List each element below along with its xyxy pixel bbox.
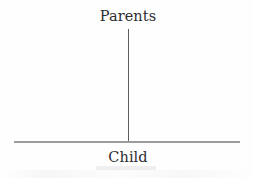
parents-label: Parents [3, 7, 253, 25]
child-label: Child [3, 148, 253, 166]
scan-artifact-band [0, 170, 253, 178]
scan-artifact-mark [96, 166, 156, 170]
vertical-connector-line [128, 29, 129, 142]
horizontal-baseline-line [14, 141, 240, 143]
parent-child-diagram: Parents Child [0, 0, 253, 178]
